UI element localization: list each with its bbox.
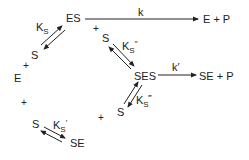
plus-sign-4: + — [98, 113, 104, 123]
plus-sign-1: + — [23, 61, 29, 71]
species-se-plus-p: SE + P — [199, 71, 234, 82]
dissociation-constant-ks-prime: KS′ — [53, 120, 67, 131]
dissociation-constant-ks-triple-prime: KS‴ — [136, 95, 152, 106]
plus-sign-2: + — [93, 24, 99, 34]
substrate-s-2: S — [102, 33, 109, 44]
species-es: ES — [66, 13, 81, 24]
substrate-s-1: S — [31, 50, 38, 61]
rate-constant-k: k — [138, 7, 144, 18]
substrate-s-4: S — [32, 119, 39, 130]
species-e: E — [14, 73, 21, 84]
rate-constant-k-prime: k′ — [172, 62, 180, 73]
arrow-se-reverse — [41, 131, 62, 142]
species-e-plus-p: E + P — [203, 14, 230, 25]
dissociation-constant-ks-double-prime: KS″ — [122, 41, 138, 52]
plus-sign-3: + — [21, 98, 27, 108]
dissociation-constant-ks: KS — [36, 22, 49, 33]
species-ses: SES — [134, 71, 156, 82]
substrate-s-3: S — [117, 107, 124, 118]
species-se: SE — [70, 138, 85, 149]
